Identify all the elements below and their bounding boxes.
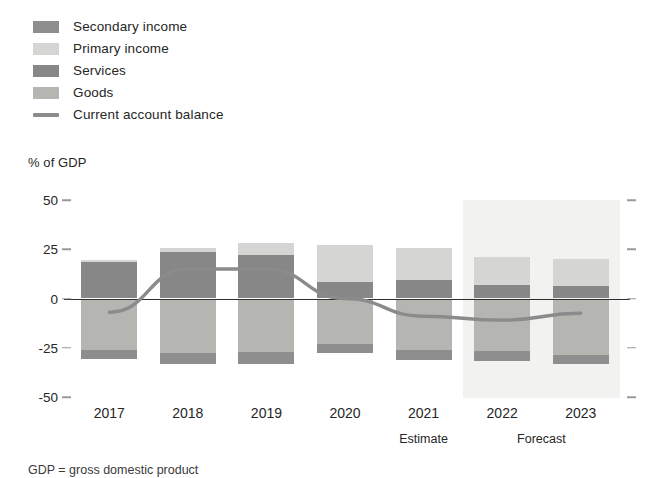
x-axis-tick-label-2017: 2017 (94, 405, 125, 421)
bar-segment-services-2022 (474, 285, 530, 299)
y-axis-tick-mark-right-25 (627, 249, 636, 251)
y-axis-tick-mark-left-neg25 (62, 347, 71, 349)
bar-segment-services-2021 (396, 280, 452, 299)
x-axis-tick-label-2019: 2019 (251, 405, 282, 421)
x-axis-tick-label-2022: 2022 (487, 405, 518, 421)
x-axis-tick-label-2021: 2021 (408, 405, 439, 421)
bar-segment-services-2018 (160, 252, 216, 298)
bar-segment-primary-income-2020 (317, 245, 373, 281)
x-axis-tick-label-2018: 2018 (172, 405, 203, 421)
y-axis-tick-mark-right-neg50 (627, 396, 636, 398)
bar-segment-secondary-income-2020 (317, 344, 373, 353)
y-axis-tick-label-0: 0 (14, 291, 58, 306)
x-axis-sublabel-forecast: Forecast (517, 432, 566, 446)
bar-segment-secondary-income-2019 (238, 352, 294, 364)
bar-segment-services-2020 (317, 282, 373, 299)
y-axis-tick-mark-left-0 (62, 298, 71, 300)
bar-segment-secondary-income-2022 (474, 351, 530, 361)
y-axis-tick-mark-left-25 (62, 249, 71, 251)
y-axis-tick-label-neg50: -50 (14, 390, 58, 405)
bar-segment-primary-income-2021 (396, 248, 452, 280)
x-axis-tick-label-2023: 2023 (565, 405, 596, 421)
y-axis-tick-mark-right-50 (627, 199, 636, 201)
y-axis-tick-label-50: 50 (14, 193, 58, 208)
bar-segment-goods-2021 (396, 299, 452, 350)
y-axis-tick-mark-left-50 (62, 199, 71, 201)
bar-segment-primary-income-2022 (474, 257, 530, 285)
bar-segment-primary-income-2018 (160, 248, 216, 252)
bar-segment-secondary-income-2021 (396, 350, 452, 360)
bar-segment-services-2017 (81, 261, 137, 298)
bar-segment-primary-income-2017 (81, 260, 137, 262)
x-axis-sublabel-estimate: Estimate (399, 432, 448, 446)
y-axis-tick-label-25: 25 (14, 242, 58, 257)
bar-segment-goods-2022 (474, 299, 530, 351)
y-axis-tick-label-neg25: -25 (14, 340, 58, 355)
bar-segment-primary-income-2019 (238, 243, 294, 255)
bar-segment-goods-2019 (238, 299, 294, 352)
bar-segment-services-2019 (238, 255, 294, 298)
y-axis-tick-mark-right-0 (627, 298, 636, 300)
x-axis-tick-label-2020: 2020 (329, 405, 360, 421)
bar-segment-secondary-income-2018 (160, 353, 216, 364)
bar-segment-goods-2020 (317, 299, 373, 344)
bar-segment-secondary-income-2023 (553, 355, 609, 364)
plot-area: 50250-25-50 2017201820192020202120222023… (0, 0, 653, 478)
chart-footnote: GDP = gross domestic product (28, 463, 198, 477)
bar-segment-goods-2018 (160, 299, 216, 353)
bar-segment-primary-income-2023 (553, 259, 609, 286)
bar-segment-services-2023 (553, 286, 609, 299)
zero-baseline (64, 299, 630, 301)
bar-segment-secondary-income-2017 (81, 350, 137, 359)
y-axis-tick-mark-left-neg50 (62, 396, 71, 398)
y-axis-tick-mark-right-neg25 (627, 347, 636, 349)
bar-segment-goods-2017 (81, 299, 137, 350)
chart-figure: Secondary income Primary income Services… (0, 0, 653, 478)
bar-segment-goods-2023 (553, 299, 609, 355)
